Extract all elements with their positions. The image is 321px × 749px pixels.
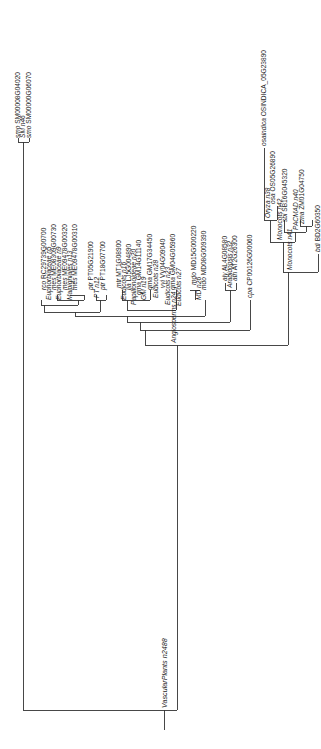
tree-labels: smo SM00008G04020 SM n46 smo SM00000G060… bbox=[14, 50, 321, 708]
root-label: VascularPlants n2488 bbox=[160, 638, 169, 708]
leaf-label: mdo MD15G000220 bbox=[190, 225, 197, 285]
phylogenetic-tree: smo SM00008G04020 SM n46 smo SM00000G060… bbox=[0, 0, 321, 749]
leaf-label: smo SM00000G06070 bbox=[25, 72, 32, 138]
leaf-label: mes ME09478G00310 bbox=[71, 224, 78, 290]
leaf-label: ptr PT18G07700 bbox=[99, 241, 107, 291]
node-label: Monocots n41 bbox=[286, 228, 293, 270]
leaf-label: mdo MD08G009390 bbox=[200, 230, 207, 290]
leaf-label: cpa CP00126G00060 bbox=[246, 234, 254, 298]
leaf-label: sbi SB16G045320 bbox=[281, 168, 288, 222]
leaf-label: ath AT2G26300 bbox=[231, 235, 238, 281]
node-label: Angiosperms n24 bbox=[170, 291, 178, 344]
leaf-label: zma ZM01G04750 bbox=[298, 169, 305, 225]
leaf-label: osa OS05G26890 bbox=[269, 151, 276, 204]
leaf-label: osaindica OSINDICA_05G23890 bbox=[260, 50, 268, 146]
node-label: Eudicots n28 bbox=[152, 260, 159, 298]
leaf-label: bdi BD2G60350 bbox=[314, 205, 321, 252]
